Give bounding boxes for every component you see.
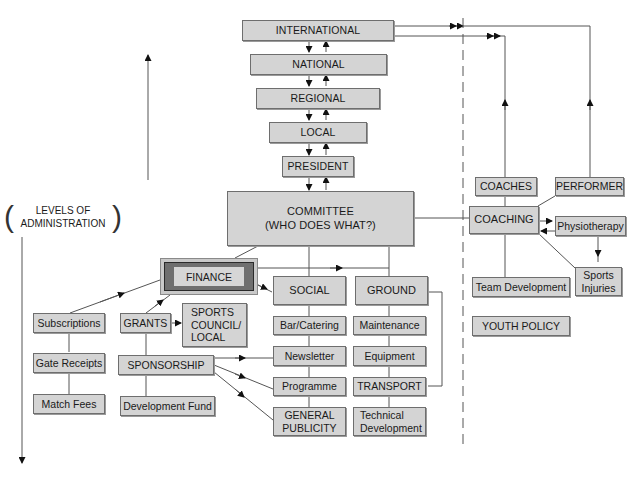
ground-label: GROUND	[367, 284, 416, 297]
sports-injuries-box: Sports Injuries	[575, 267, 622, 296]
sports-council-label: SPORTS COUNCIL/ LOCAL	[191, 306, 241, 344]
president-box: PRESIDENT	[282, 156, 354, 177]
international-box: INTERNATIONAL	[242, 20, 394, 41]
transport-label: TRANSPORT	[357, 380, 422, 393]
newsletter-label: Newsletter	[285, 350, 335, 363]
levels-label-line1: LEVELS OF	[14, 204, 112, 217]
match-fees-box: Match Fees	[33, 394, 105, 414]
maintenance-label: Maintenance	[359, 319, 419, 332]
bar-catering-label: Bar/Catering	[280, 319, 339, 332]
sports-council-box: SPORTS COUNCIL/ LOCAL	[182, 303, 247, 347]
gate-receipts-label: Gate Receipts	[36, 357, 103, 370]
levels-of-administration-label: ( LEVELS OF ADMINISTRATION )	[4, 200, 122, 236]
youth-policy-label: YOUTH POLICY	[482, 320, 560, 333]
equipment-label: Equipment	[364, 350, 414, 363]
technical-development-box: Technical Development	[353, 407, 426, 436]
general-publicity-box: GENERAL PUBLICITY	[273, 407, 346, 436]
local-label: LOCAL	[301, 126, 336, 139]
programme-box: Programme	[273, 377, 346, 396]
social-box: SOCIAL	[273, 276, 346, 305]
subscriptions-box: Subscriptions	[33, 313, 105, 333]
left-parenthesis: (	[4, 200, 14, 234]
social-label: SOCIAL	[289, 284, 329, 297]
finance-frame: FINANCE	[164, 262, 254, 291]
technical-development-label: Technical Development	[360, 409, 422, 434]
newsletter-box: Newsletter	[273, 346, 346, 366]
youth-policy-box: YOUTH POLICY	[472, 316, 570, 336]
equipment-box: Equipment	[353, 346, 426, 366]
bar-catering-box: Bar/Catering	[273, 316, 346, 335]
performer-label: PERFORMER	[556, 180, 623, 193]
sponsorship-label: SPONSORSHIP	[127, 359, 204, 372]
transport-box: TRANSPORT	[353, 377, 426, 396]
regional-box: REGIONAL	[256, 88, 380, 109]
international-label: INTERNATIONAL	[276, 24, 361, 37]
ground-box: GROUND	[355, 276, 428, 305]
regional-label: REGIONAL	[290, 92, 345, 105]
committee-box: COMMITTEE (WHO DOES WHAT?)	[227, 191, 414, 246]
grants-box: GRANTS	[120, 313, 171, 333]
national-label: NATIONAL	[292, 58, 345, 71]
physiotherapy-label: Physiotherapy	[557, 220, 624, 233]
development-fund-label: Development Fund	[123, 400, 212, 413]
levels-label-line2: ADMINISTRATION	[14, 217, 112, 230]
committee-title: COMMITTEE	[287, 205, 354, 218]
gate-receipts-box: Gate Receipts	[33, 353, 105, 373]
performer-box: PERFORMER	[555, 177, 624, 196]
finance-label: FINANCE	[186, 271, 232, 283]
subscriptions-label: Subscriptions	[37, 317, 100, 330]
right-parenthesis: )	[112, 200, 122, 234]
physiotherapy-box: Physiotherapy	[555, 216, 626, 236]
organisation-structure-diagram: INTERNATIONAL NATIONAL REGIONAL LOCAL PR…	[0, 0, 643, 483]
development-fund-box: Development Fund	[120, 396, 215, 416]
coaching-box: COACHING	[469, 206, 539, 234]
committee-subtitle: (WHO DOES WHAT?)	[265, 219, 376, 232]
team-development-box: Team Development	[472, 277, 570, 297]
coaches-label: COACHES	[480, 180, 532, 193]
maintenance-box: Maintenance	[353, 316, 426, 335]
sports-injuries-label: Sports Injuries	[582, 269, 616, 294]
match-fees-label: Match Fees	[42, 398, 97, 411]
local-box: LOCAL	[269, 122, 367, 143]
programme-label: Programme	[282, 380, 337, 393]
finance-box: FINANCE	[160, 258, 258, 295]
sponsorship-box: SPONSORSHIP	[118, 355, 214, 375]
national-box: NATIONAL	[250, 54, 387, 75]
coaching-label: COACHING	[474, 213, 533, 226]
grants-label: GRANTS	[124, 317, 168, 330]
president-label: PRESIDENT	[288, 160, 349, 173]
finance-inner: FINANCE	[174, 267, 244, 286]
team-development-label: Team Development	[476, 281, 566, 294]
coaches-box: COACHES	[475, 177, 537, 196]
general-publicity-label: GENERAL PUBLICITY	[282, 409, 336, 434]
